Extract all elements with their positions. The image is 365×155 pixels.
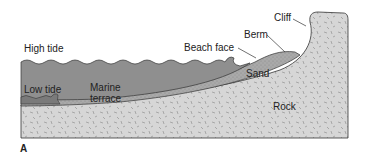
coastal-cross-section	[0, 0, 365, 155]
label-sand: Sand	[246, 68, 269, 79]
leader-beach-face	[238, 48, 256, 58]
label-marine-terrace-1: Marine	[90, 82, 121, 93]
label-low-tide: Low tide	[24, 84, 61, 95]
label-rock: Rock	[273, 101, 296, 112]
panel-label: A	[20, 143, 27, 154]
label-marine-terrace-2: terrace	[90, 93, 121, 104]
label-high-tide: High tide	[24, 43, 63, 54]
leader-berm	[267, 35, 285, 52]
leader-cliff	[293, 19, 306, 26]
label-berm: Berm	[244, 29, 268, 40]
label-cliff: Cliff	[274, 12, 291, 23]
label-beach-face: Beach face	[184, 42, 234, 53]
